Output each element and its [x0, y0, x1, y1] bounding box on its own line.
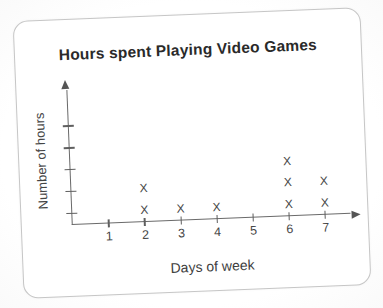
data-point-marker: X — [139, 182, 147, 194]
photo-background: Hours spent Playing Video Games Number o… — [0, 0, 383, 308]
data-point-marker: X — [212, 201, 220, 213]
chart-card: Hours spent Playing Video Games Number o… — [13, 7, 372, 299]
x-axis-tick-label: 2 — [142, 228, 150, 242]
y-axis-tick — [66, 212, 77, 214]
x-axis-tick — [252, 213, 254, 221]
data-point-marker: X — [321, 197, 329, 209]
plot-area: 1234567 XXXXXXXXX — [66, 79, 350, 225]
x-axis-arrow-icon — [351, 210, 360, 218]
y-axis-tick — [63, 147, 74, 149]
x-axis-label: Days of week — [73, 253, 351, 280]
x-axis-tick-label: 1 — [106, 229, 114, 243]
x-axis-tick — [324, 210, 326, 218]
data-point-marker: X — [283, 155, 291, 167]
x-axis-tick — [144, 217, 146, 225]
y-axis-tick — [65, 190, 76, 192]
y-axis-tick — [64, 169, 75, 171]
x-axis-tick — [180, 216, 182, 224]
x-axis-tick-label: 5 — [250, 223, 258, 237]
y-axis-tick — [62, 125, 73, 127]
ticks-layer: 1234567 — [67, 79, 345, 90]
x-axis-tick — [216, 215, 218, 223]
x-axis-tick-label: 6 — [286, 222, 294, 236]
data-point-marker: X — [285, 198, 293, 210]
y-axis-label: Number of hours — [32, 112, 51, 209]
chart-title: Hours spent Playing Video Games — [15, 34, 361, 66]
x-axis-tick-label: 7 — [322, 221, 330, 235]
x-axis-tick-label: 3 — [178, 226, 186, 240]
data-point-marker: X — [176, 203, 184, 215]
data-point-marker: X — [284, 176, 292, 188]
y-axis-arrow-icon — [61, 80, 69, 89]
data-point-marker: X — [320, 175, 328, 187]
markers-layer: XXXXXXXXX — [67, 79, 345, 90]
x-axis-tick — [288, 212, 290, 220]
data-point-marker: X — [140, 204, 148, 216]
x-axis-tick — [108, 219, 110, 227]
x-axis-tick-label: 4 — [214, 225, 222, 239]
